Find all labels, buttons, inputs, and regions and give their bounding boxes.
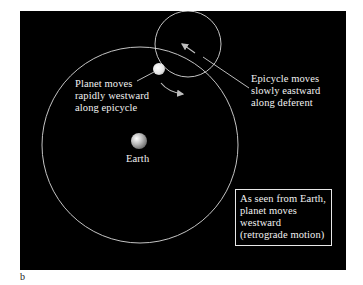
deferent-direction-arrow	[182, 44, 195, 53]
earth-icon	[131, 133, 147, 149]
retrograde-motion-box: As seen from Earth, planet moves westwar…	[235, 189, 332, 246]
epicycle-circle	[155, 11, 221, 77]
earth-label: Earth	[126, 153, 149, 165]
epicycle-motion-label: Epicycle moves slowly eastward along def…	[251, 73, 320, 109]
planet-motion-label: Planet moves rapidly westward along epic…	[75, 78, 149, 114]
epicycle-direction-arrow	[161, 83, 183, 94]
epicycle-leader-line	[203, 57, 249, 88]
panel-letter: b	[20, 271, 25, 282]
planet-icon	[153, 63, 165, 75]
retrograde-motion-text: As seen from Earth, planet moves westwar…	[240, 193, 331, 241]
